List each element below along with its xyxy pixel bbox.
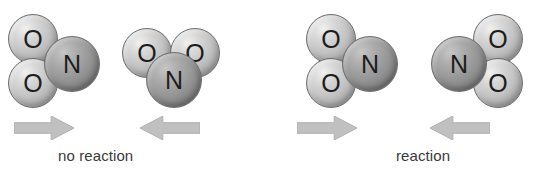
arrow-right-icon <box>14 116 74 140</box>
atom-label-nitrogen: N <box>165 68 183 93</box>
atom-label-oxygen: O <box>321 71 340 96</box>
atom-nitrogen: N <box>342 36 398 92</box>
molecular-collision-diagram: O O N O O N no reaction O O N <box>0 0 540 174</box>
atom-label-oxygen: O <box>488 27 507 52</box>
arrow-left-icon <box>430 116 490 140</box>
atom-nitrogen: N <box>44 36 100 92</box>
caption-reaction: reaction <box>396 147 450 164</box>
atom-label-oxygen: O <box>321 27 340 52</box>
atom-label-oxygen: O <box>23 27 42 52</box>
atom-label-oxygen: O <box>23 71 42 96</box>
atom-nitrogen: N <box>431 36 487 92</box>
caption-no-reaction: no reaction <box>58 147 133 164</box>
arrow-left-icon <box>140 116 200 140</box>
atom-label-nitrogen: N <box>63 52 81 77</box>
atom-label-oxygen: O <box>488 71 507 96</box>
atom-label-nitrogen: N <box>361 52 379 77</box>
atom-label-nitrogen: N <box>450 52 468 77</box>
atom-nitrogen: N <box>146 52 202 108</box>
arrow-right-icon <box>297 116 357 140</box>
